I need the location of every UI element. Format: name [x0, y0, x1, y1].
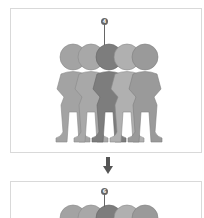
- callout-badge: 6: [101, 188, 108, 195]
- down-arrow-icon: [103, 157, 113, 178]
- people-group-figure: [11, 9, 202, 153]
- top-panel: 4: [10, 8, 202, 153]
- callout-line: [104, 195, 105, 207]
- callout-badge: 4: [101, 18, 108, 25]
- bottom-panel: 6: [10, 181, 202, 218]
- callout-line: [104, 25, 105, 45]
- people-group-figure-bottom: [11, 182, 202, 218]
